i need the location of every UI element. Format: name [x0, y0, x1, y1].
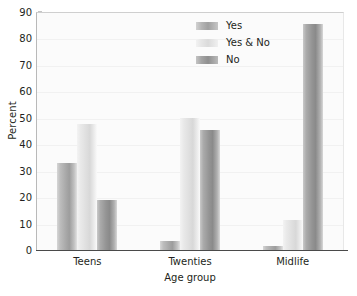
y-tick-label: 0 [6, 245, 32, 256]
chart-legend: YesYes & NoNo [196, 17, 270, 68]
y-tick-label: 70 [6, 59, 32, 70]
bar-chart: Percent 0102030405060708090 YesYes & NoN… [0, 0, 357, 296]
y-tick-label: 60 [6, 86, 32, 97]
bar [200, 130, 220, 250]
bar [180, 118, 200, 250]
y-tick-label: 30 [6, 165, 32, 176]
legend-item: No [196, 51, 270, 68]
bar [97, 200, 117, 250]
x-tick-label: Midlife [276, 256, 309, 267]
bar [303, 24, 323, 250]
y-tick-label: 10 [6, 218, 32, 229]
y-tick-label: 80 [6, 33, 32, 44]
x-axis-ticks: TeensTwentiesMidlife [36, 256, 344, 270]
legend-swatch-icon [196, 39, 218, 47]
x-axis-title: Age group [36, 272, 344, 283]
legend-label: Yes & No [226, 37, 270, 48]
legend-swatch-icon [196, 22, 218, 30]
bars-layer [36, 12, 344, 250]
x-tick-label: Teens [73, 256, 101, 267]
bar [77, 124, 97, 250]
x-tick-label: Twenties [168, 256, 211, 267]
legend-label: Yes [226, 20, 242, 31]
legend-item: Yes & No [196, 34, 270, 51]
y-tick-label: 20 [6, 192, 32, 203]
legend-swatch-icon [196, 56, 218, 64]
y-tick-label: 90 [6, 7, 32, 18]
bar [57, 163, 77, 250]
y-axis-ticks: 0102030405060708090 [6, 12, 32, 250]
legend-item: Yes [196, 17, 270, 34]
y-tick-label: 50 [6, 112, 32, 123]
y-tick-label: 40 [6, 139, 32, 150]
bar [160, 241, 180, 250]
x-axis-line [36, 250, 348, 251]
legend-label: No [226, 54, 240, 65]
bar [283, 220, 303, 250]
